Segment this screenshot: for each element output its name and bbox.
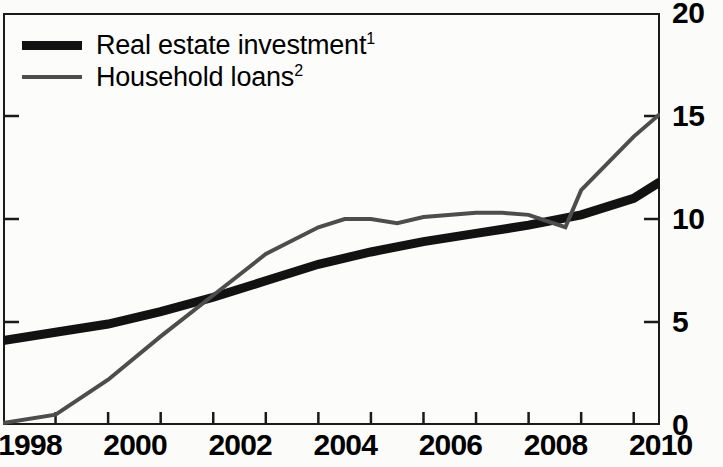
legend-footnote-real-estate-investment: 1 [366,30,375,47]
x-tick-label-1998: 1998 [0,430,62,460]
y-axis-ticks-right [644,116,660,322]
chart-legend: Real estate investment1 Household loans2 [22,30,375,94]
x-tick-label-2000: 2000 [103,430,167,460]
x-tick-label-2010: 2010 [629,430,693,460]
legend-footnote-household-loans: 2 [294,62,303,79]
x-tick-label-2004: 2004 [314,430,378,460]
y-tick-label-10: 10 [672,204,704,234]
legend-text-household-loans: Household loans [96,62,294,92]
y-tick-label-15: 15 [672,101,704,131]
x-tick-label-2008: 2008 [524,430,588,460]
x-tick-label-2006: 2006 [419,430,483,460]
x-axis-ticks [3,412,634,425]
legend-item-real-estate-investment: Real estate investment1 [22,30,375,60]
chart-figure: 05101520 1998200020022004200620082010 Re… [0,0,723,467]
y-tick-label-20: 20 [672,0,704,28]
legend-swatch-real-estate-investment [22,41,82,50]
y-tick-label-5: 5 [672,307,688,337]
legend-swatch-household-loans [22,75,82,79]
chart-series-lines [3,114,660,423]
legend-item-household-loans: Household loans2 [22,62,375,92]
legend-label-real-estate-investment: Real estate investment1 [96,32,375,59]
legend-label-household-loans: Household loans2 [96,64,303,91]
y-axis-ticks-left [3,116,19,322]
x-tick-label-2002: 2002 [208,430,272,460]
legend-text-real-estate-investment: Real estate investment [96,30,366,60]
